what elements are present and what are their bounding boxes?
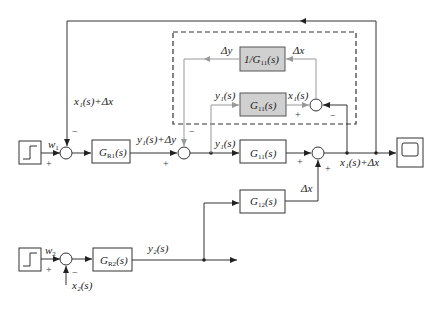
arrow-feedback-top — [300, 18, 306, 24]
wire-g12-in — [204, 203, 239, 260]
signal-delta-x-g12: Δx — [300, 182, 312, 194]
signal-gr1-out: y₁(s)+Δy — [136, 133, 176, 146]
sign-sumb-bottom: − — [72, 267, 78, 278]
summing-junction-3 — [312, 147, 324, 159]
summing-junction-inner — [310, 99, 322, 111]
sign-inner-left: + — [295, 109, 301, 120]
sign-sum2-top: − — [189, 126, 195, 137]
block-diagram: GR1(s) G11(s) G11(s) 1/G11(s) G12(s) GR2… — [0, 0, 440, 310]
sign-sum2-left: + — [163, 158, 169, 169]
summing-junction-1 — [60, 147, 72, 159]
signal-y1-main: y₁(s) — [214, 137, 236, 150]
signal-y1-model: y₁(s) — [214, 89, 236, 102]
step-input-1[interactable] — [19, 141, 41, 164]
sign-sum3-left: + — [297, 156, 303, 167]
scope[interactable] — [397, 138, 423, 167]
wire-feedback-top — [67, 21, 376, 153]
scope-screen-icon — [402, 143, 418, 156]
signal-y2: y₂(s) — [147, 242, 169, 255]
signal-w1: w1 — [48, 138, 59, 152]
step-input-2[interactable] — [19, 248, 41, 271]
sign-sum1-top: − — [72, 126, 78, 137]
signal-x1-model: x₁(s) — [287, 89, 309, 102]
junction-y2 — [202, 258, 206, 262]
junction-output-2 — [374, 151, 378, 155]
sign-sumb-left: + — [46, 264, 52, 275]
signal-feedback-top: x₁(s)+Δx — [73, 95, 113, 108]
summing-junction-2 — [178, 147, 190, 159]
signal-delta-x-top: Δx — [292, 44, 304, 56]
signal-x2: x₂(s) — [71, 279, 93, 292]
signal-output: x₁(s)+Δx — [339, 156, 379, 169]
summing-junction-b — [60, 253, 72, 265]
signal-w2: w2 — [45, 244, 56, 258]
sign-sum3-bottom: + — [325, 163, 331, 174]
sign-sum1-left: + — [46, 158, 52, 169]
sign-inner-right: − — [330, 110, 336, 121]
signal-delta-y: Δy — [220, 44, 232, 56]
